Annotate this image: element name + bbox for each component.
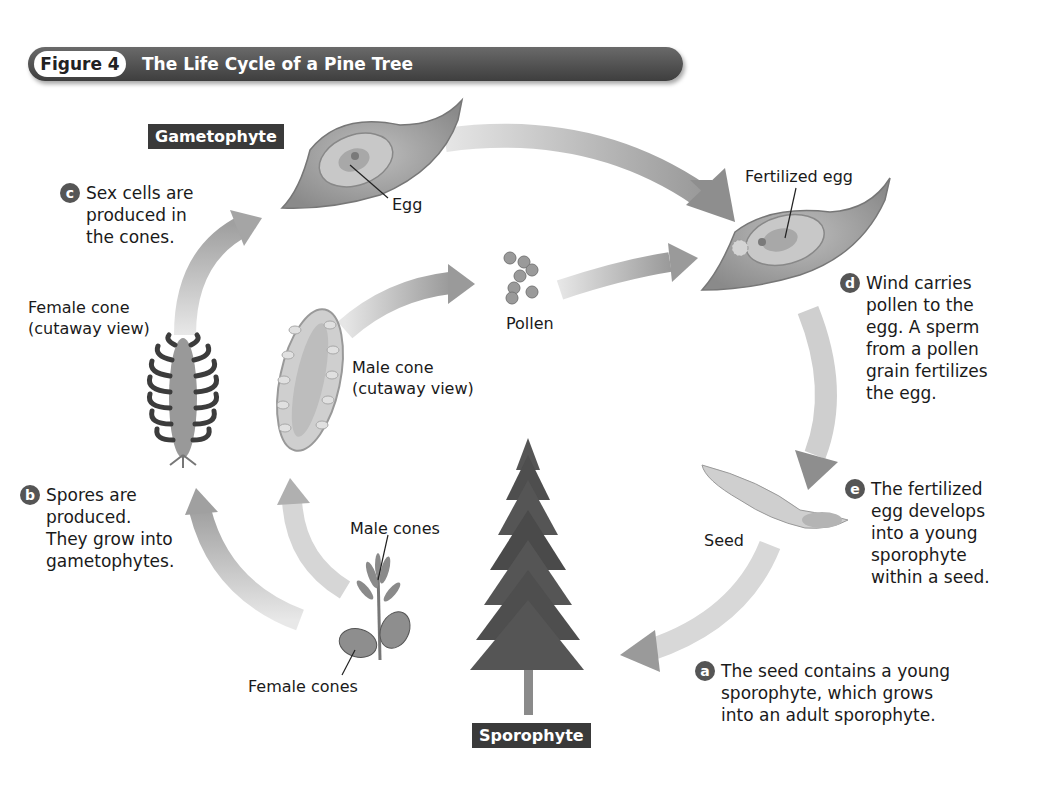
step-a-badge: a — [695, 661, 715, 681]
step-d: d Wind carries pollen to the egg. A sper… — [840, 272, 988, 404]
label-pollen: Pollen — [506, 313, 554, 334]
stage-label-sporophyte: Sporophyte — [472, 723, 591, 748]
arrow-to-male-cone — [277, 478, 345, 590]
pollen-grains-image — [504, 252, 538, 304]
female-cone-cutaway-image — [149, 335, 216, 468]
label-female-cones: Female cones — [248, 676, 358, 697]
label-female-cone-cutaway: Female cone (cutaway view) — [28, 297, 150, 339]
branch-with-cones-image — [336, 535, 416, 675]
seed-image — [702, 465, 848, 528]
step-c-badge: c — [60, 183, 80, 203]
label-male-cones: Male cones — [350, 518, 440, 539]
step-b-badge: b — [20, 485, 40, 505]
step-c-text: Sex cells are produced in the cones. — [86, 182, 193, 248]
male-cone-cutaway-image — [266, 303, 355, 456]
arrow-seed-to-sporophyte — [620, 545, 770, 672]
step-e-text: The fertilized egg develops into a young… — [871, 478, 990, 588]
stage-label-gametophyte: Gametophyte — [148, 124, 284, 149]
step-a-text: The seed contains a young sporophyte, wh… — [721, 660, 950, 726]
step-d-badge: d — [840, 273, 860, 293]
pine-tree-image — [470, 438, 584, 715]
figure-number: Figure 4 — [34, 51, 126, 77]
arrow-pollen-to-egg — [560, 243, 698, 290]
gametophyte-ovule-image — [282, 100, 462, 208]
step-a: a The seed contains a young sporophyte, … — [695, 660, 950, 726]
label-seed: Seed — [704, 530, 744, 551]
arrow-to-fertilized-egg — [445, 136, 735, 222]
label-egg: Egg — [392, 194, 422, 215]
label-fertilized-egg: Fertilized egg — [745, 166, 853, 187]
figure-title: The Life Cycle of a Pine Tree — [142, 51, 413, 77]
step-b-text: Spores are produced. They grow into game… — [46, 484, 174, 572]
step-c: c Sex cells are produced in the cones. — [60, 182, 193, 248]
arrow-to-seed — [795, 310, 838, 490]
step-d-text: Wind carries pollen to the egg. A sperm … — [866, 272, 988, 404]
step-e: e The fertilized egg develops into a you… — [845, 478, 990, 588]
arrow-female-cone-to-gametophyte — [185, 210, 262, 335]
arrow-to-pollen — [345, 264, 475, 330]
step-b: b Spores are produced. They grow into ga… — [20, 484, 174, 572]
label-male-cone-cutaway: Male cone (cutaway view) — [352, 357, 474, 399]
step-e-badge: e — [845, 479, 865, 499]
